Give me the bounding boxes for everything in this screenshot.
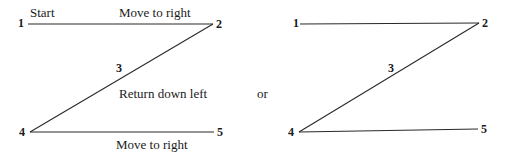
bottom-move-label: Move to right (116, 138, 188, 151)
right-top-line (300, 23, 479, 24)
right-vertex-1: 1 (293, 17, 299, 29)
right-vertex-4: 4 (288, 126, 294, 138)
left-vertex-2: 2 (216, 18, 222, 30)
diagonal-label: Return down left (119, 87, 207, 100)
right-diagonal-line (299, 23, 479, 132)
right-bottom-line (299, 129, 478, 132)
right-vertex-2: 2 (482, 17, 488, 29)
start-label: Start (30, 6, 55, 19)
left-diagonal-line (30, 24, 213, 132)
left-vertex-3: 3 (116, 62, 122, 74)
right-vertex-3: 3 (388, 62, 394, 74)
z-pattern-lines (0, 0, 508, 161)
or-separator: or (257, 87, 268, 100)
left-vertex-4: 4 (19, 126, 25, 138)
left-vertex-1: 1 (18, 17, 24, 29)
left-vertex-5: 5 (217, 126, 223, 138)
top-move-label: Move to right (119, 6, 191, 19)
right-vertex-5: 5 (481, 123, 487, 135)
